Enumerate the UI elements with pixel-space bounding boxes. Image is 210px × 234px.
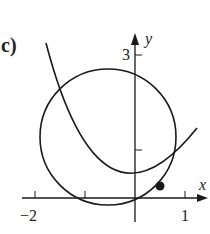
x-axis: −2 1 x (20, 176, 208, 224)
panel-label: c) (1, 34, 17, 57)
x-tick-label-1: 1 (181, 207, 189, 224)
y-tick-label-3: 3 (122, 46, 130, 63)
y-axis: 3 y (122, 30, 153, 222)
x-tick-label-neg2: −2 (20, 207, 37, 224)
y-axis-arrow-icon (131, 33, 139, 45)
x-axis-arrow-icon (197, 194, 208, 202)
tangent-point-marker (156, 182, 165, 191)
diagram-canvas: c) −2 1 x 3 y (0, 0, 210, 234)
x-axis-label: x (198, 176, 206, 193)
y-axis-label: y (143, 30, 153, 48)
